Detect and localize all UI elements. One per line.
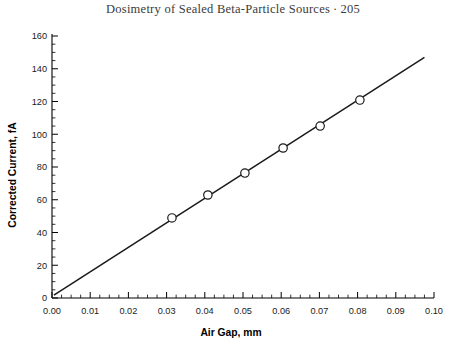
x-tick-label: 0.10	[425, 306, 443, 316]
data-point-marker	[204, 191, 212, 199]
y-tick-label: 20	[37, 261, 47, 271]
running-head-separator: ·	[330, 2, 340, 16]
linear-fit-line	[54, 57, 425, 295]
y-tick-label: 160	[32, 31, 47, 41]
y-axis-title: Corrected Current, fA	[7, 122, 18, 228]
data-point-marker	[356, 96, 364, 104]
y-axis-major-ticks	[52, 36, 58, 298]
x-tick-label: 0.03	[158, 306, 176, 316]
scatter-plot-figure: 020406080100120140160 0.000.010.020.030.…	[0, 24, 466, 345]
y-tick-label: 100	[32, 130, 47, 140]
x-tick-label: 0.01	[81, 306, 99, 316]
x-axis-title: Air Gap, mm	[200, 327, 261, 338]
y-tick-label: 140	[32, 64, 47, 74]
running-head-title: Dosimetry of Sealed Beta-Particle Source…	[106, 2, 330, 16]
x-tick-label: 0.09	[387, 306, 405, 316]
y-tick-label: 120	[32, 97, 47, 107]
x-tick-label: 0.06	[272, 306, 290, 316]
y-axis-tick-labels: 020406080100120140160	[32, 31, 47, 303]
y-tick-label: 80	[37, 162, 47, 172]
x-tick-label: 0.04	[196, 306, 214, 316]
data-point-marker	[316, 122, 324, 130]
running-head-page-number: 205	[341, 2, 361, 16]
x-tick-label: 0.00	[43, 306, 61, 316]
x-tick-label: 0.05	[234, 306, 252, 316]
x-axis-tick-labels: 0.000.010.020.030.040.050.060.070.080.09…	[43, 306, 443, 316]
plot-canvas: 020406080100120140160 0.000.010.020.030.…	[0, 24, 466, 345]
y-tick-label: 0	[42, 293, 47, 303]
y-tick-label: 60	[37, 195, 47, 205]
y-tick-label: 40	[37, 228, 47, 238]
x-tick-label: 0.07	[310, 306, 328, 316]
x-tick-label: 0.08	[349, 306, 367, 316]
x-tick-label: 0.02	[119, 306, 137, 316]
running-head: Dosimetry of Sealed Beta-Particle Source…	[0, 2, 466, 17]
data-point-marker	[168, 214, 176, 222]
data-point-marker	[279, 144, 287, 152]
data-point-marker	[241, 169, 249, 177]
